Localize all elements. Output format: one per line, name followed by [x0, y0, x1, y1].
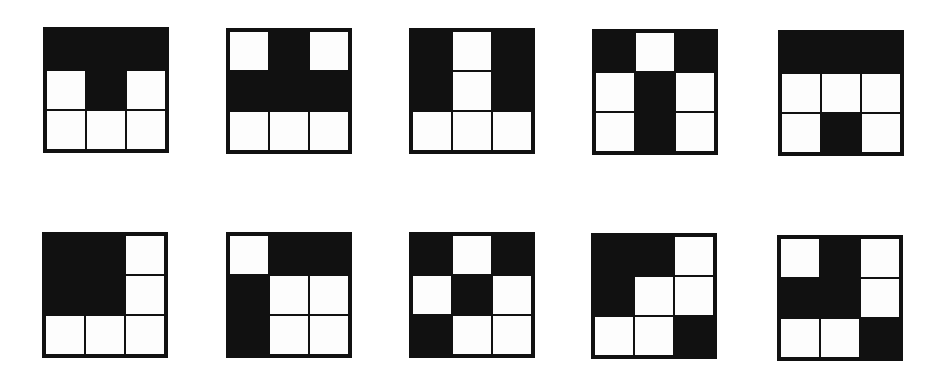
filled-cell — [594, 276, 634, 316]
empty-cell — [452, 315, 492, 355]
empty-cell — [85, 315, 125, 355]
empty-cell — [781, 73, 821, 113]
empty-cell — [595, 112, 635, 152]
empty-cell — [46, 110, 86, 150]
filled-cell — [85, 235, 125, 275]
empty-cell — [412, 111, 452, 151]
empty-cell — [309, 275, 349, 315]
filled-cell — [269, 31, 309, 71]
filled-cell — [412, 315, 452, 355]
filled-cell — [229, 71, 269, 111]
empty-cell — [821, 73, 861, 113]
empty-cell — [269, 275, 309, 315]
filled-cell — [229, 315, 269, 355]
filled-cell — [635, 112, 675, 152]
filled-cell — [860, 318, 900, 358]
filled-cell — [820, 238, 860, 278]
filled-cell — [675, 32, 715, 72]
pattern-grid-row1-item1 — [43, 27, 169, 153]
empty-cell — [229, 235, 269, 275]
empty-cell — [452, 71, 492, 111]
empty-cell — [86, 110, 126, 150]
empty-cell — [634, 276, 674, 316]
filled-cell — [781, 33, 821, 73]
filled-cell — [452, 275, 492, 315]
filled-cell — [821, 33, 861, 73]
filled-cell — [635, 72, 675, 112]
filled-cell — [412, 235, 452, 275]
filled-cell — [820, 278, 860, 318]
empty-cell — [125, 315, 165, 355]
filled-cell — [45, 235, 85, 275]
empty-cell — [269, 111, 309, 151]
pattern-grid-row2-item1 — [42, 232, 168, 358]
filled-cell — [86, 70, 126, 110]
filled-cell — [269, 235, 309, 275]
pattern-grid-row1-item4 — [592, 29, 718, 155]
pattern-grid-row1-item3 — [409, 28, 535, 154]
filled-cell — [85, 275, 125, 315]
filled-cell — [492, 71, 532, 111]
empty-cell — [309, 315, 349, 355]
empty-cell — [452, 111, 492, 151]
filled-cell — [821, 113, 861, 153]
empty-cell — [820, 318, 860, 358]
pattern-grid-row1-item5 — [778, 30, 904, 156]
empty-cell — [125, 235, 165, 275]
empty-cell — [269, 315, 309, 355]
pattern-grid-row1-item2 — [226, 28, 352, 154]
empty-cell — [229, 111, 269, 151]
empty-cell — [492, 111, 532, 151]
filled-cell — [229, 275, 269, 315]
empty-cell — [634, 316, 674, 356]
filled-cell — [269, 71, 309, 111]
empty-cell — [860, 238, 900, 278]
empty-cell — [675, 112, 715, 152]
pattern-grid-row2-item3 — [409, 232, 535, 358]
empty-cell — [675, 72, 715, 112]
pattern-grid-row2-item5 — [777, 235, 903, 361]
filled-cell — [126, 30, 166, 70]
empty-cell — [861, 73, 901, 113]
filled-cell — [45, 275, 85, 315]
empty-cell — [309, 31, 349, 71]
empty-cell — [126, 70, 166, 110]
empty-cell — [780, 238, 820, 278]
empty-cell — [45, 315, 85, 355]
empty-cell — [492, 315, 532, 355]
filled-cell — [492, 235, 532, 275]
empty-cell — [781, 113, 821, 153]
empty-cell — [674, 276, 714, 316]
empty-cell — [229, 31, 269, 71]
pattern-grid-row2-item2 — [226, 232, 352, 358]
pattern-grid-row2-item4 — [591, 233, 717, 359]
empty-cell — [126, 110, 166, 150]
filled-cell — [309, 235, 349, 275]
empty-cell — [860, 278, 900, 318]
empty-cell — [595, 72, 635, 112]
filled-cell — [412, 31, 452, 71]
empty-cell — [492, 275, 532, 315]
filled-cell — [634, 236, 674, 276]
empty-cell — [125, 275, 165, 315]
empty-cell — [635, 32, 675, 72]
empty-cell — [861, 113, 901, 153]
empty-cell — [412, 275, 452, 315]
empty-cell — [780, 318, 820, 358]
empty-cell — [452, 235, 492, 275]
filled-cell — [309, 71, 349, 111]
empty-cell — [452, 31, 492, 71]
filled-cell — [86, 30, 126, 70]
empty-cell — [594, 316, 634, 356]
filled-cell — [492, 31, 532, 71]
filled-cell — [861, 33, 901, 73]
empty-cell — [46, 70, 86, 110]
filled-cell — [780, 278, 820, 318]
filled-cell — [674, 316, 714, 356]
filled-cell — [595, 32, 635, 72]
filled-cell — [412, 71, 452, 111]
filled-cell — [594, 236, 634, 276]
filled-cell — [46, 30, 86, 70]
empty-cell — [674, 236, 714, 276]
empty-cell — [309, 111, 349, 151]
